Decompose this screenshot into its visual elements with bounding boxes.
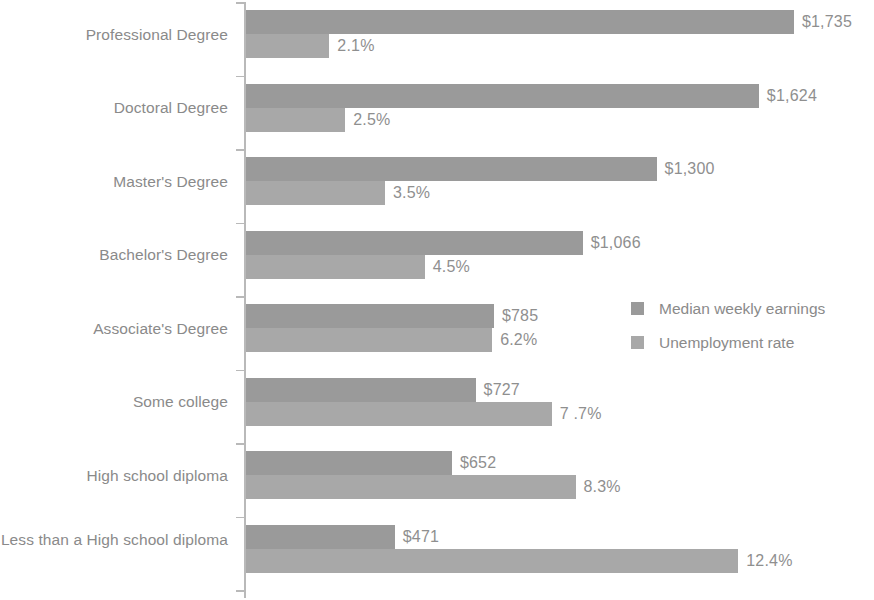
axis-tick [236, 517, 245, 519]
bar-chart: Professional Degree$1,7352.1%Doctoral De… [0, 0, 874, 600]
bar-value-label-earnings: $727 [484, 378, 520, 402]
bar-median-weekly-earnings [246, 10, 794, 34]
bar-value-label-earnings: $1,735 [802, 10, 852, 34]
bar-unemployment-rate [246, 108, 345, 132]
category-label: Professional Degree [0, 25, 228, 44]
bar-value-label-unemployment: 2.5% [353, 108, 390, 132]
category-label: Some college [0, 392, 228, 411]
category-label: Master's Degree [0, 172, 228, 191]
bar-value-label-earnings: $785 [502, 304, 538, 328]
bar-median-weekly-earnings [246, 157, 657, 181]
axis-tick [236, 76, 245, 78]
legend-item[interactable]: Unemployment rate [631, 332, 874, 366]
bar-unemployment-rate [246, 475, 576, 499]
legend-label: Unemployment rate [659, 332, 794, 353]
bar-value-label-unemployment: 4.5% [433, 255, 470, 279]
bar-unemployment-rate [246, 328, 492, 352]
bar-value-label-unemployment: 3.5% [393, 181, 430, 205]
bar-value-label-unemployment: 12.4% [746, 549, 792, 573]
axis-tick [236, 2, 245, 4]
chart-legend: Median weekly earningsUnemployment rate [631, 298, 874, 366]
axis-tick [236, 443, 245, 445]
legend-label: Median weekly earnings [659, 298, 825, 319]
bar-median-weekly-earnings [246, 84, 759, 108]
axis-tick [236, 149, 245, 151]
category-label: High school diploma [0, 466, 228, 485]
legend-swatch-icon [631, 336, 644, 349]
category-label: Doctoral Degree [0, 98, 228, 117]
bar-unemployment-rate [246, 181, 385, 205]
bar-value-label-unemployment: 7 .7% [560, 402, 602, 426]
legend-swatch-icon [631, 302, 644, 315]
category-label: Bachelor's Degree [0, 245, 228, 264]
bar-value-label-earnings: $1,624 [767, 84, 817, 108]
bar-value-label-earnings: $1,066 [591, 231, 641, 255]
axis-tick [236, 370, 245, 372]
category-label: Less than a High school diploma [0, 530, 228, 549]
axis-tick [236, 296, 245, 298]
axis-tick [236, 590, 245, 592]
axis-tick [236, 223, 245, 225]
bar-value-label-unemployment: 8.3% [584, 475, 621, 499]
category-label: Associate's Degree [0, 319, 228, 338]
bar-median-weekly-earnings [246, 451, 452, 475]
bar-value-label-earnings: $471 [403, 525, 439, 549]
bar-value-label-earnings: $1,300 [665, 157, 715, 181]
bar-median-weekly-earnings [246, 378, 476, 402]
bar-value-label-unemployment: 2.1% [337, 34, 374, 58]
bar-unemployment-rate [246, 402, 552, 426]
bar-median-weekly-earnings [246, 525, 395, 549]
bar-median-weekly-earnings [246, 231, 583, 255]
bar-unemployment-rate [246, 34, 329, 58]
bar-unemployment-rate [246, 549, 738, 573]
legend-item[interactable]: Median weekly earnings [631, 298, 874, 332]
bar-unemployment-rate [246, 255, 425, 279]
bar-median-weekly-earnings [246, 304, 494, 328]
bar-value-label-earnings: $652 [460, 451, 496, 475]
bar-value-label-unemployment: 6.2% [500, 328, 537, 352]
